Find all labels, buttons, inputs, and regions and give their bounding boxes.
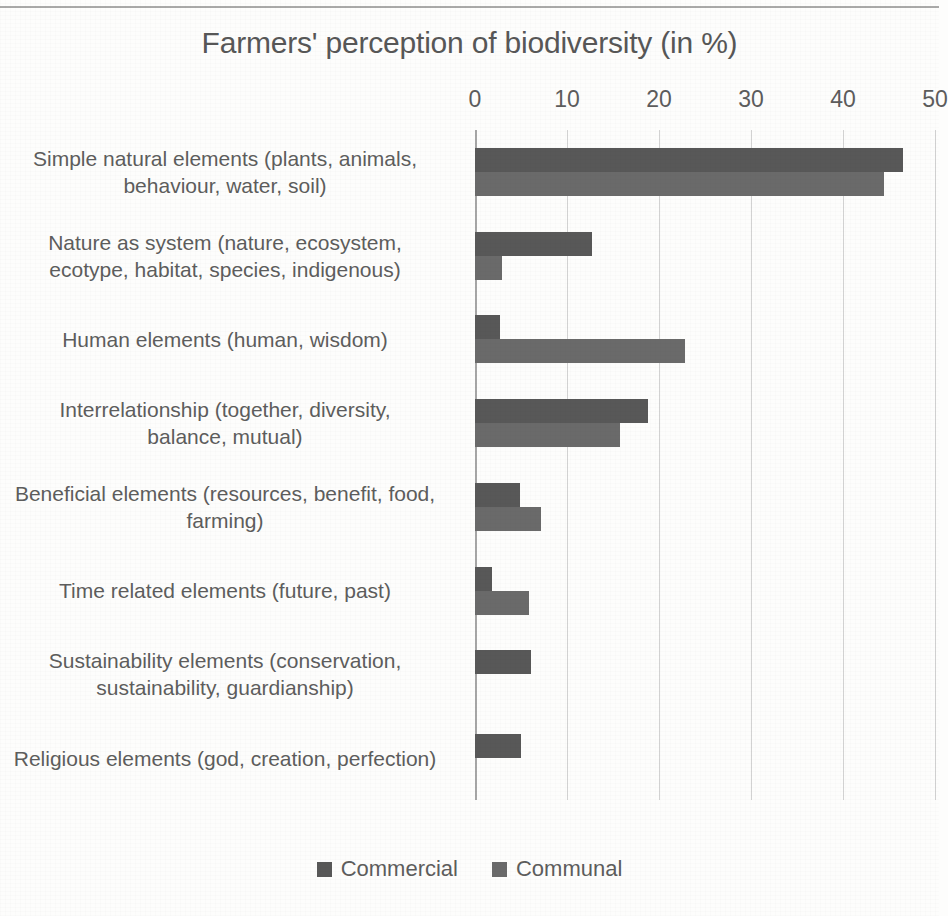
category-label-2: Human elements (human, wisdom) [0, 326, 450, 353]
category-label-7: Religious elements (god, creation, perfe… [0, 745, 450, 772]
legend-label: Communal [516, 856, 622, 882]
gridline-30 [751, 130, 752, 800]
gridline-20 [659, 130, 660, 800]
category-label-line: Religious elements (god, creation, perfe… [0, 745, 450, 772]
legend-swatch-icon [317, 862, 332, 877]
category-label-3: Interrelationship (together, diversity,b… [0, 396, 450, 450]
bar-commercial-cat4 [475, 483, 520, 507]
x-tick-label-10: 10 [554, 86, 580, 113]
category-label-5: Time related elements (future, past) [0, 577, 450, 604]
bar-communal-cat2 [475, 339, 685, 363]
category-label-line: Time related elements (future, past) [0, 577, 450, 604]
chart-legend: CommercialCommunal [0, 856, 939, 882]
bar-commercial-cat2 [475, 315, 500, 339]
category-label-line: behaviour, water, soil) [0, 172, 450, 199]
bar-communal-cat1 [475, 256, 502, 280]
category-label-line: Interrelationship (together, diversity, [0, 396, 450, 423]
category-label-4: Beneficial elements (resources, benefit,… [0, 480, 450, 534]
bar-commercial-cat6 [475, 650, 531, 674]
bar-commercial-cat1 [475, 232, 592, 256]
value-axis-line [475, 130, 477, 800]
category-label-line: Beneficial elements (resources, benefit,… [0, 480, 450, 507]
gridline-50 [935, 130, 936, 800]
category-label-line: Sustainability elements (conservation, [0, 647, 450, 674]
bar-commercial-cat3 [475, 399, 648, 423]
legend-swatch-icon [492, 862, 507, 877]
category-label-line: sustainability, guardianship) [0, 674, 450, 701]
x-tick-label-0: 0 [469, 86, 482, 113]
top-divider-rule [0, 6, 939, 8]
x-axis-tick-labels: 01020304050 [0, 86, 939, 116]
legend-item-communal[interactable]: Communal [492, 856, 622, 882]
category-label-line: balance, mutual) [0, 423, 450, 450]
category-label-line: Simple natural elements (plants, animals… [0, 145, 450, 172]
bar-communal-cat4 [475, 507, 541, 531]
category-label-line: Nature as system (nature, ecosystem, [0, 229, 450, 256]
bar-commercial-cat5 [475, 567, 492, 591]
plot-area [475, 130, 935, 800]
x-tick-label-50: 50 [922, 86, 948, 113]
bar-communal-cat5 [475, 591, 529, 615]
x-tick-label-20: 20 [646, 86, 672, 113]
bar-commercial-cat7 [475, 734, 521, 758]
bar-commercial-cat0 [475, 148, 903, 172]
x-tick-label-30: 30 [738, 86, 764, 113]
gridline-40 [843, 130, 844, 800]
bar-communal-cat0 [475, 172, 884, 196]
category-label-6: Sustainability elements (conservation,su… [0, 647, 450, 701]
category-label-line: farming) [0, 507, 450, 534]
chart-title: Farmers' perception of biodiversity (in … [0, 26, 939, 60]
bar-communal-cat3 [475, 423, 620, 447]
legend-label: Commercial [341, 856, 458, 882]
legend-item-commercial[interactable]: Commercial [317, 856, 458, 882]
category-label-line: ecotype, habitat, species, indigenous) [0, 256, 450, 283]
category-label-line: Human elements (human, wisdom) [0, 326, 450, 353]
category-label-0: Simple natural elements (plants, animals… [0, 145, 450, 199]
gridline-10 [567, 130, 568, 800]
x-tick-label-40: 40 [830, 86, 856, 113]
category-label-1: Nature as system (nature, ecosystem,ecot… [0, 229, 450, 283]
category-axis-labels: Simple natural elements (plants, animals… [0, 130, 462, 800]
